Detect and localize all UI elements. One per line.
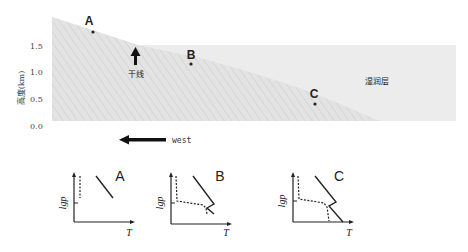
direction-label: west bbox=[172, 136, 191, 145]
sounding-a-title: A bbox=[115, 168, 125, 184]
sounding-panel-c: C lgp T bbox=[276, 168, 354, 238]
moist-layer-label: 湿润层 bbox=[365, 76, 389, 86]
sounding-c-y-label: lgp bbox=[276, 195, 287, 208]
sounding-b-temperature-line bbox=[193, 176, 214, 214]
sounding-a-y-label: lgp bbox=[57, 197, 68, 210]
point-b-marker bbox=[189, 62, 192, 65]
sounding-b-y-arrow-icon bbox=[169, 172, 173, 177]
sounding-c-x-label: T bbox=[346, 227, 353, 238]
sounding-b-title: B bbox=[215, 168, 224, 184]
point-label-a: A bbox=[85, 14, 94, 28]
sounding-panel-a: A lgp T bbox=[57, 168, 135, 238]
sounding-panel-b: B lgp T bbox=[154, 168, 232, 238]
sounding-a-x-label: T bbox=[126, 227, 133, 238]
west-arrow-icon bbox=[119, 135, 166, 145]
diagram-canvas: 1.5 1.0 0.5 0.0 高度(km) A B C 干线 湿润层 west… bbox=[0, 0, 468, 252]
sounding-b-y-label: lgp bbox=[154, 197, 165, 210]
sounding-c-title: C bbox=[334, 168, 344, 184]
y-tick-0.5: 0.5 bbox=[30, 95, 43, 104]
sounding-c-x-arrow-icon bbox=[349, 220, 354, 224]
sounding-b-x-label: T bbox=[223, 227, 230, 238]
sounding-a-temperature-line bbox=[96, 176, 113, 198]
sounding-c-y-arrow-icon bbox=[291, 172, 295, 177]
point-a-marker bbox=[91, 30, 94, 33]
point-label-b: B bbox=[187, 48, 196, 62]
y-tick-0.0: 0.0 bbox=[30, 122, 43, 131]
sounding-a-y-arrow-icon bbox=[72, 172, 76, 177]
dryline-label: 干线 bbox=[128, 69, 144, 79]
y-axis-label: 高度(km) bbox=[16, 71, 26, 106]
point-c-marker bbox=[313, 102, 316, 105]
sounding-c-dewpoint-line bbox=[298, 176, 329, 221]
point-label-c: C bbox=[310, 87, 319, 101]
y-tick-1.0: 1.0 bbox=[30, 68, 43, 77]
sounding-a-x-arrow-icon bbox=[130, 220, 135, 224]
sounding-b-x-arrow-icon bbox=[227, 222, 232, 226]
y-tick-1.5: 1.5 bbox=[30, 42, 43, 51]
sounding-b-dewpoint-line bbox=[176, 176, 207, 214]
